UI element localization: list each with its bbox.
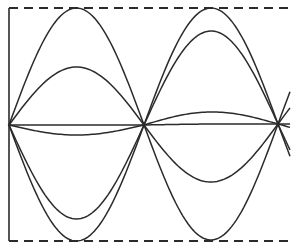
wave-curves [8, 8, 290, 241]
wave-curve-loop1-6 [9, 125, 144, 241]
standing-wave-canvas [0, 0, 299, 246]
node-point-3 [277, 123, 279, 125]
node-point-1 [8, 124, 10, 126]
wave-curve-loop1-2 [9, 67, 144, 125]
wave-curve-loop1-4 [9, 125, 144, 135]
wave-curve-loop2-2 [144, 31, 290, 150]
wave-curve-loop1-5 [9, 125, 144, 219]
wave-curve-loop2-4 [144, 124, 290, 125]
node-point-2 [143, 124, 145, 126]
standing-wave-diagram [0, 0, 299, 246]
wave-curve-loop2-6 [144, 92, 290, 240]
wave-curve-loop2-1 [144, 8, 290, 156]
